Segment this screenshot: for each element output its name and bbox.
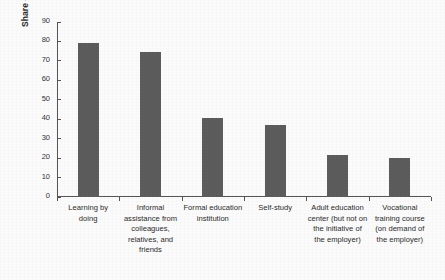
bar [389, 158, 410, 197]
y-axis-tick-mark [57, 177, 61, 178]
y-axis-line [57, 22, 58, 197]
y-axis-title: Share of methods used (%) [18, 0, 32, 56]
x-axis-category-label: Self-study [245, 203, 305, 214]
y-axis-tick-label: 20 [42, 152, 50, 161]
bar-chart-figure: Share of methods used (%) 01020304050607… [0, 0, 445, 280]
bar [202, 118, 223, 197]
y-axis-tick-mark [57, 41, 61, 42]
y-axis-tick-label: 10 [42, 172, 50, 181]
bar [265, 125, 286, 197]
x-axis-tick-mark [182, 197, 183, 201]
bar [140, 52, 161, 197]
x-axis-category-labels: Learning by doingInformal assistance fro… [57, 203, 431, 273]
x-axis-category-label: Adult education center (but not on the i… [307, 203, 367, 245]
y-axis-tick-label: 30 [42, 133, 50, 142]
y-axis-tick-mark [57, 119, 61, 120]
y-axis-tick-label: 90 [42, 16, 50, 25]
y-axis-title-container: Share of methods used (%) [8, 20, 22, 195]
bar [327, 155, 348, 197]
plot-area: 0102030405060708090 [57, 22, 431, 197]
x-axis-tick-mark [57, 197, 58, 201]
x-axis-category-label: Vocational training course (on demand of… [370, 203, 430, 245]
y-axis-tick-label: 70 [42, 55, 50, 64]
y-axis-tick-label: 50 [42, 94, 50, 103]
y-axis-tick-label: 80 [42, 35, 50, 44]
y-axis-tick-mark [57, 22, 61, 23]
x-axis-tick-mark [306, 197, 307, 201]
y-axis-tick-mark [57, 80, 61, 81]
y-axis-tick-label: 60 [42, 74, 50, 83]
x-axis-category-label: Informal assistance from colleagues, rel… [120, 203, 180, 256]
x-axis-tick-mark [431, 197, 432, 201]
y-axis-tick-label: 40 [42, 113, 50, 122]
x-axis-tick-mark [119, 197, 120, 201]
y-axis-tick-label: 0 [46, 191, 50, 200]
bar [78, 43, 99, 197]
y-axis-tick-mark [57, 60, 61, 61]
x-axis-tick-mark [244, 197, 245, 201]
x-axis-tick-mark [369, 197, 370, 201]
x-axis-category-label: Formal education institution [183, 203, 243, 224]
y-axis-tick-mark [57, 99, 61, 100]
y-axis-tick-mark [57, 138, 61, 139]
y-axis-tick-mark [57, 158, 61, 159]
x-axis-category-label: Learning by doing [58, 203, 118, 224]
